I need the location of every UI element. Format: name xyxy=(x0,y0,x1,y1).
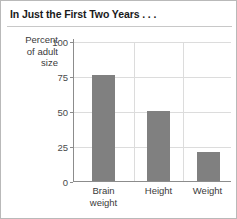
tick-mark-75 xyxy=(70,77,73,78)
bar-brain-weight xyxy=(92,75,115,181)
y-axis-label: Percent of adult size xyxy=(7,34,58,69)
tick-mark-100 xyxy=(70,42,73,43)
y-tick-label-0: 0 xyxy=(63,177,68,188)
y-axis-label-line-3: size xyxy=(7,57,58,69)
x-category-label-weight-line-1: Weight xyxy=(184,185,231,197)
gridline-category-divider-1 xyxy=(134,42,135,182)
x-axis-line xyxy=(73,181,231,182)
tick-mark-25 xyxy=(70,147,73,148)
title-divider xyxy=(7,26,232,27)
x-category-label-brain-weight-line-2: weight xyxy=(79,197,128,209)
y-tick-label-50: 50 xyxy=(57,107,68,118)
y-axis-label-line-1: Percent xyxy=(7,34,58,46)
gridline-category-divider-2 xyxy=(183,42,184,182)
y-tick-label-75: 75 xyxy=(57,72,68,83)
y-axis-label-line-2: of adult xyxy=(7,46,58,58)
x-category-label-weight: Weight xyxy=(184,185,231,197)
bar-height xyxy=(147,111,170,181)
x-category-label-brain-weight-line-1: Brain xyxy=(79,185,128,197)
y-tick-label-100: 100 xyxy=(52,37,68,48)
bar-weight xyxy=(197,152,220,181)
y-axis-line xyxy=(73,39,74,182)
y-tick-label-25: 25 xyxy=(57,142,68,153)
x-category-label-height: Height xyxy=(134,185,183,197)
gridline-100 xyxy=(73,42,231,43)
chart-title: In Just the First Two Years . . . xyxy=(10,8,225,20)
chart-figure: In Just the First Two Years . . . Percen… xyxy=(0,0,237,219)
tick-mark-50 xyxy=(70,112,73,113)
x-category-label-height-line-1: Height xyxy=(134,185,183,197)
tick-mark-0 xyxy=(70,182,73,183)
plot-area: 100 75 50 25 0 Brain weight Height Weigh… xyxy=(73,42,231,182)
x-category-label-brain-weight: Brain weight xyxy=(79,185,128,208)
